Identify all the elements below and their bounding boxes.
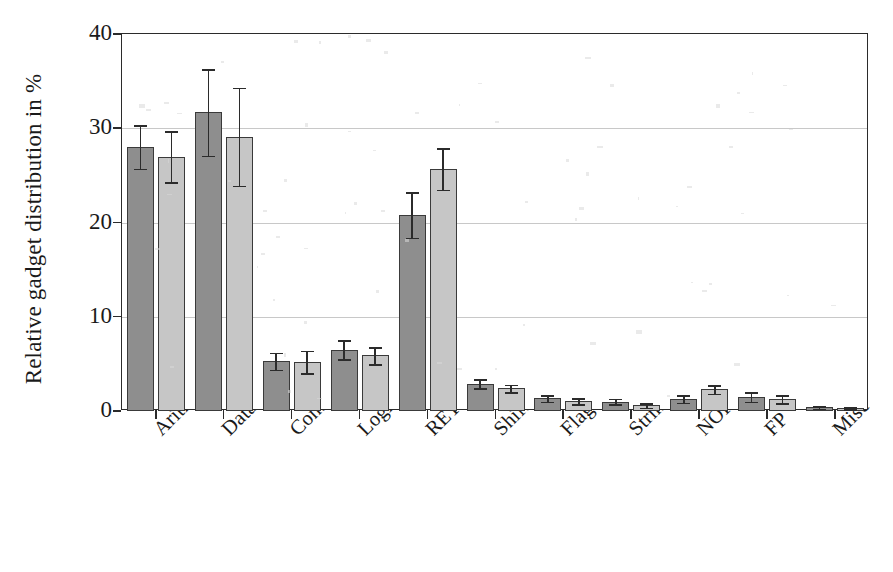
noise-speck [345, 212, 346, 214]
noise-speck [585, 57, 591, 59]
noise-speck [610, 84, 615, 87]
bar [430, 169, 457, 411]
error-bar-line [275, 353, 277, 370]
error-bar-line [411, 192, 413, 237]
bar [399, 215, 426, 411]
error-bar-line [343, 340, 345, 359]
noise-speck [373, 150, 376, 152]
y-tick-label: 10 [0, 304, 112, 327]
noise-speck [284, 353, 286, 357]
error-bar-cap-upper [708, 385, 721, 387]
error-bar-cap-lower [134, 169, 147, 171]
noise-speck [170, 366, 173, 369]
noise-speck [716, 104, 720, 108]
error-bar-cap-upper [474, 379, 487, 381]
error-bar-cap-upper [338, 340, 351, 342]
noise-speck [155, 248, 160, 249]
noise-speck [687, 186, 692, 187]
y-tick-label: 30 [0, 115, 112, 138]
noise-speck [590, 342, 595, 346]
y-tick-mark [113, 127, 121, 129]
noise-speck [273, 299, 275, 301]
noise-speck [459, 104, 460, 106]
error-bar-cap-lower [572, 404, 585, 406]
error-bar-cap-lower [640, 408, 653, 410]
noise-speck [221, 61, 224, 63]
noise-speck [831, 305, 836, 307]
error-bar-cap-lower [233, 186, 246, 188]
error-bar-line [239, 88, 241, 186]
noise-speck [276, 236, 280, 238]
noise-speck [317, 398, 322, 399]
noise-speck [495, 368, 496, 370]
error-bar-cap-upper [437, 148, 450, 150]
noise-speck [676, 206, 678, 207]
error-bar-cap-upper [202, 69, 215, 71]
x-tick-label: FP [760, 408, 793, 441]
bar [127, 147, 154, 411]
error-bar-cap-lower [301, 373, 314, 375]
y-tick-mark [113, 33, 121, 35]
noise-speck [146, 109, 151, 111]
error-bar-line [171, 131, 173, 182]
noise-speck [384, 51, 387, 54]
error-bar-cap-lower [369, 364, 382, 366]
error-bar-cap-lower [165, 182, 178, 184]
noise-speck [691, 282, 694, 283]
noise-speck [228, 180, 232, 182]
noise-speck [638, 197, 640, 199]
noise-speck [354, 202, 357, 205]
noise-speck [702, 290, 706, 293]
noise-speck [294, 40, 298, 43]
noise-speck [729, 146, 733, 148]
y-tick-label: 20 [0, 210, 112, 233]
noise-speck [263, 210, 268, 212]
noise-speck [523, 324, 525, 325]
noise-speck [495, 121, 500, 124]
error-bar-line [442, 148, 444, 189]
error-bar-cap-lower [437, 190, 450, 192]
bar-chart-figure: Relative gadget distribution in % 010203… [0, 0, 893, 572]
error-bar-cap-lower [270, 370, 283, 372]
error-bar-cap-upper [541, 395, 554, 397]
noise-speck [636, 330, 641, 334]
error-bar-cap-lower [708, 394, 721, 396]
noise-speck [709, 283, 713, 285]
y-tick-label: 40 [0, 21, 112, 44]
noise-speck [749, 112, 754, 113]
y-tick-mark [113, 316, 121, 318]
noise-speck [177, 113, 182, 114]
noise-speck [789, 129, 793, 130]
error-bar-cap-upper [609, 399, 622, 401]
error-bar-cap-upper [677, 395, 690, 397]
noise-speck [783, 85, 787, 86]
noise-speck [304, 248, 307, 249]
noise-speck [737, 92, 740, 94]
noise-speck [415, 112, 419, 113]
y-tick-label: 0 [0, 398, 112, 421]
noise-speck [348, 35, 351, 38]
noise-speck [787, 295, 790, 296]
error-bar-line [140, 125, 142, 168]
error-bar-cap-lower [505, 392, 518, 394]
noise-speck [457, 368, 462, 370]
error-bar-cap-upper [369, 347, 382, 349]
noise-speck [319, 41, 321, 44]
y-tick-mark [113, 222, 121, 224]
noise-speck [376, 290, 379, 293]
error-bar-cap-upper [406, 192, 419, 194]
plot-area [121, 33, 868, 410]
error-bar-cap-upper [640, 403, 653, 405]
noise-speck [348, 131, 350, 133]
error-bar-cap-upper [270, 353, 283, 355]
noise-speck [284, 179, 287, 182]
error-bar-cap-lower [776, 403, 789, 405]
noise-speck [752, 72, 753, 75]
y-tick-mark [113, 410, 121, 412]
gridline [122, 128, 867, 129]
noise-speck [597, 146, 603, 148]
noise-speck [525, 201, 528, 203]
noise-speck [381, 210, 385, 212]
error-bar-cap-upper [813, 406, 826, 408]
error-bar-cap-upper [165, 131, 178, 133]
